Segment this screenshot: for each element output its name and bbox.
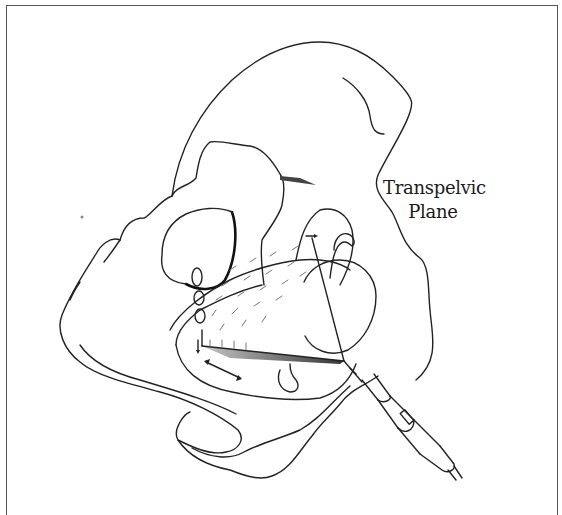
pelvic-inlet	[170, 209, 376, 400]
label-line-1: Transpelvic	[383, 176, 483, 200]
ligament-marks	[280, 176, 316, 185]
transpelvic-plane-label: Transpelvic Plane	[383, 176, 483, 224]
label-line-2: Plane	[383, 200, 483, 224]
ultrasound-beam	[202, 238, 344, 364]
marker-dot	[81, 216, 84, 219]
sacrum	[120, 142, 284, 289]
ovaries	[278, 234, 354, 392]
ultrasound-probe	[344, 361, 462, 480]
hatched-region	[212, 246, 306, 330]
